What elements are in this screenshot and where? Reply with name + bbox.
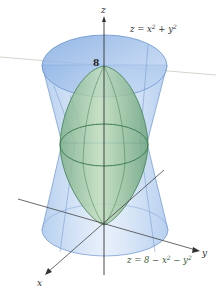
y-arrow-icon	[192, 247, 200, 253]
y-axis-label: y	[201, 248, 208, 258]
lower-surface-equation: z = 8 − x2 − y2	[126, 254, 192, 265]
upper-surface-equation: z = x2 + y2	[129, 23, 177, 34]
z-tick-8: 8	[93, 58, 99, 68]
z-arrow-icon	[102, 16, 106, 22]
x-axis-label: x	[37, 278, 42, 288]
z-axis-label: z	[100, 5, 106, 15]
paraboloid-diagram: z y x 8 z = x2 + y2 z = 8 − x2 − y2	[0, 0, 216, 293]
